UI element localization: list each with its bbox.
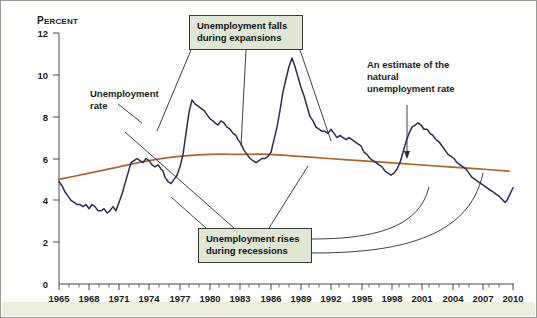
chart-figure: 12 10 8 6 4 2 0 PERCENT — [0, 0, 537, 318]
natural-rate-series-line — [59, 154, 509, 179]
natural-rate-arrowhead — [404, 151, 410, 159]
natural-rate-annotation-line1: An estimate of the — [367, 59, 449, 70]
x-tick-2007: 2007 — [472, 293, 493, 304]
y-tick-10: 10 — [37, 70, 48, 81]
y-tick-12: 12 — [37, 28, 48, 39]
y-tick-6: 6 — [43, 154, 48, 165]
x-tick-1986: 1986 — [260, 293, 281, 304]
x-tick-2001: 2001 — [411, 293, 433, 304]
x-tick-1989: 1989 — [290, 293, 311, 304]
x-axis-ticks — [59, 284, 513, 290]
y-axis-tick-labels: 12 10 8 6 4 2 0 — [37, 28, 48, 290]
x-tick-1983: 1983 — [229, 293, 250, 304]
x-tick-1992: 1992 — [320, 293, 341, 304]
y-tick-4: 4 — [43, 195, 49, 206]
y-tick-2: 2 — [43, 237, 48, 248]
callout-unemployment-falls-during-expansions: Unemployment falls during expansions — [189, 15, 303, 50]
x-tick-1965: 1965 — [48, 293, 70, 304]
y-axis-unit-label: PERCENT — [37, 15, 78, 26]
natural-rate-annotation-line2: natural — [367, 71, 399, 82]
unemployment-rate-leader-line — [118, 104, 142, 123]
x-tick-1971: 1971 — [108, 293, 130, 304]
x-tick-1968: 1968 — [78, 293, 99, 304]
x-tick-1980: 1980 — [199, 293, 220, 304]
unemployment-rate-series-line — [59, 58, 513, 213]
y-tick-8: 8 — [43, 112, 48, 123]
unemployment-rate-annotation: Unemployment rate — [90, 88, 159, 111]
x-tick-1998: 1998 — [381, 293, 402, 304]
x-tick-2004: 2004 — [442, 293, 464, 304]
x-tick-1977: 1977 — [169, 293, 190, 304]
x-axis-tick-labels: 1965 1968 1971 1974 1977 1980 1983 1986 … — [48, 293, 523, 304]
unemployment-rate-annotation-line1: Unemployment — [90, 88, 159, 99]
y-axis-ticks — [53, 33, 59, 242]
x-tick-1974: 1974 — [138, 293, 160, 304]
natural-rate-annotation-line3: unemployment rate — [367, 83, 455, 94]
x-tick-2010: 2010 — [502, 293, 523, 304]
natural-rate-annotation: An estimate of the natural unemployment … — [367, 59, 455, 94]
callout-unemployment-rises-during-recessions: Unemployment rises during recessions — [198, 228, 312, 263]
unemployment-rate-annotation-line2: rate — [90, 100, 107, 111]
y-tick-0: 0 — [43, 279, 48, 290]
x-tick-1995: 1995 — [351, 293, 373, 304]
